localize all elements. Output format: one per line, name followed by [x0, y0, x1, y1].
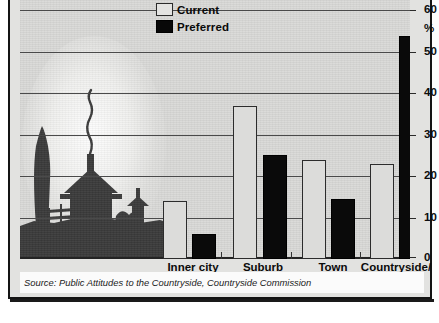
- y-axis: 60 % 50 40 30 20 10 0: [20, 0, 424, 262]
- legend-label-current: Current: [177, 4, 219, 16]
- chart-legend: Current Preferred: [156, 2, 229, 36]
- source-caption: Source: Public Attitudes to the Countrys…: [20, 272, 424, 293]
- ytick-mark-0: [410, 257, 416, 258]
- ytick-label-10: 10: [424, 212, 439, 223]
- ytick-label-40: 40: [424, 87, 439, 98]
- ytick-label-30: 30: [424, 129, 439, 140]
- left-page-margin: [0, 0, 8, 323]
- legend-item-current: Current: [156, 2, 229, 17]
- ytick-mark-50: [410, 52, 416, 53]
- chart-frame: 60 % 50 40 30 20 10 0 Current Preferred …: [8, 0, 432, 299]
- ytick-mark-60: [410, 10, 416, 11]
- ytick-mark-10: [410, 218, 416, 219]
- y-axis-unit-label: %: [424, 22, 434, 34]
- bottom-page-margin: [0, 302, 439, 323]
- ytick-mark-20: [410, 176, 416, 177]
- legend-label-preferred: Preferred: [177, 21, 229, 33]
- figure-page: 60 % 50 40 30 20 10 0 Current Preferred …: [0, 0, 439, 323]
- legend-swatch-preferred-icon: [156, 20, 173, 33]
- ytick-mark-40: [410, 93, 416, 94]
- source-text: Source: Public Attitudes to the Countrys…: [20, 277, 311, 288]
- ytick-label-20: 20: [424, 170, 439, 181]
- legend-item-preferred: Preferred: [156, 19, 229, 34]
- ytick-mark-30: [410, 135, 416, 136]
- legend-swatch-current-icon: [156, 3, 173, 16]
- ytick-label-50: 50: [424, 46, 439, 57]
- ytick-label-60: 60: [424, 4, 439, 15]
